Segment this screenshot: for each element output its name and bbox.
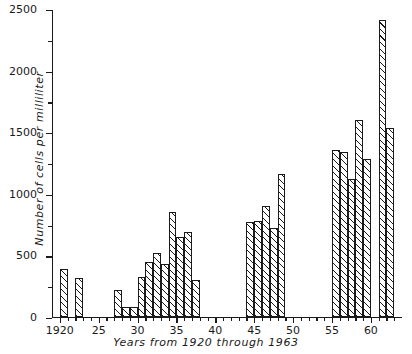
x-minor-tick-1961	[379, 318, 380, 321]
x-minor-tick-1931	[145, 318, 146, 321]
x-minor-tick-1928	[122, 318, 123, 321]
x-minor-tick-1926	[106, 318, 107, 321]
x-axis-title: Years from 1920 through 1963	[0, 336, 412, 349]
x-minor-tick-1952	[309, 318, 310, 321]
bar-1944	[246, 222, 254, 317]
x-minor-tick-1937	[192, 318, 193, 321]
x-minor-tick-1944	[246, 318, 247, 321]
bar-1946	[262, 206, 270, 317]
x-minor-tick-1956	[340, 318, 341, 321]
y-tick-label-1000: 1000	[9, 188, 37, 201]
y-axis-line	[52, 10, 53, 318]
y-minor-tick-750	[48, 226, 52, 227]
x-minor-tick-1959	[363, 318, 364, 321]
x-minor-tick-1939	[208, 318, 209, 321]
x-minor-tick-1936	[184, 318, 185, 321]
bar-1927	[114, 290, 122, 317]
y-tick-label-1500: 1500	[9, 126, 37, 139]
y-tick-label-2500: 2500	[9, 3, 37, 16]
bar-1933	[161, 264, 169, 317]
x-minor-tick-1921	[68, 318, 69, 321]
x-minor-tick-1953	[316, 318, 317, 321]
x-minor-tick-1929	[130, 318, 131, 321]
bar-1961	[379, 20, 387, 317]
y-tick-0: 0	[46, 318, 52, 319]
y-minor-tick-1250	[48, 164, 52, 165]
x-minor-tick-1941	[223, 318, 224, 321]
x-minor-tick-1922	[75, 318, 76, 321]
x-tick-1950	[293, 318, 294, 323]
x-tick-label-1925: 25	[92, 324, 106, 337]
x-tick-1960	[371, 318, 372, 323]
x-tick-label-1930: 30	[131, 324, 145, 337]
bar-1958	[355, 120, 363, 317]
x-minor-tick-1938	[200, 318, 201, 321]
bar-1962	[386, 128, 394, 316]
y-minor-tick-250	[48, 287, 52, 288]
x-axis-line	[52, 317, 402, 318]
bar-1922	[75, 278, 83, 316]
y-tick-label-0: 0	[30, 311, 37, 324]
x-minor-tick-1943	[239, 318, 240, 321]
x-minor-tick-1957	[348, 318, 349, 321]
bar-1947	[270, 228, 278, 317]
bar-1957	[348, 179, 356, 317]
y-tick-500: 500	[46, 256, 52, 257]
x-minor-tick-1923	[83, 318, 84, 321]
plot-area: 05001000150020002500 1920253035404550556…	[52, 10, 402, 318]
x-minor-tick-1946	[262, 318, 263, 321]
x-minor-tick-1954	[324, 318, 325, 321]
x-minor-tick-1927	[114, 318, 115, 321]
y-minor-tick-1750	[48, 102, 52, 103]
bar-1931	[145, 262, 153, 316]
x-tick-label-1950: 50	[286, 324, 300, 337]
x-minor-tick-1942	[231, 318, 232, 321]
histogram-figure: Number of cells per milliliter Years fro…	[0, 0, 412, 354]
bar-1928	[122, 307, 130, 317]
bar-1956	[340, 152, 348, 317]
y-tick-1000: 1000	[46, 195, 52, 196]
x-tick-label-1960: 60	[364, 324, 378, 337]
bar-1945	[254, 221, 262, 317]
x-tick-1925	[99, 318, 100, 323]
x-tick-1955	[332, 318, 333, 323]
x-minor-tick-1932	[153, 318, 154, 321]
bar-1935	[176, 237, 184, 317]
y-minor-tick-2250	[48, 41, 52, 42]
x-tick-label-1955: 55	[325, 324, 339, 337]
y-tick-2500: 2500	[46, 10, 52, 11]
x-tick-1940	[215, 318, 216, 323]
bar-1959	[363, 159, 371, 317]
x-tick-1920	[60, 318, 61, 323]
x-tick-label-1940: 40	[208, 324, 222, 337]
x-tick-1935	[176, 318, 177, 323]
y-tick-2000: 2000	[46, 72, 52, 73]
bar-1920	[60, 269, 68, 317]
x-tick-label-1945: 45	[247, 324, 261, 337]
x-minor-tick-1962	[386, 318, 387, 321]
bar-1934	[169, 212, 177, 317]
x-minor-tick-1924	[91, 318, 92, 321]
y-tick-label-500: 500	[16, 250, 37, 263]
bar-1937	[192, 280, 200, 317]
bar-1948	[278, 174, 286, 317]
x-minor-tick-1934	[169, 318, 170, 321]
bar-1930	[138, 277, 146, 316]
x-tick-1945	[254, 318, 255, 323]
x-minor-tick-1958	[355, 318, 356, 321]
x-minor-tick-1951	[301, 318, 302, 321]
x-tick-label-1935: 35	[169, 324, 183, 337]
x-tick-1930	[138, 318, 139, 323]
x-minor-tick-1933	[161, 318, 162, 321]
x-minor-tick-1963	[394, 318, 395, 321]
bar-1936	[184, 232, 192, 317]
bar-1929	[130, 307, 138, 317]
x-minor-tick-1949	[285, 318, 286, 321]
x-minor-tick-1948	[278, 318, 279, 321]
x-minor-tick-1947	[270, 318, 271, 321]
y-tick-1500: 1500	[46, 133, 52, 134]
y-tick-label-2000: 2000	[9, 65, 37, 78]
bar-1932	[153, 253, 161, 317]
bar-1955	[332, 150, 340, 316]
x-tick-label-1920: 1920	[46, 324, 74, 337]
